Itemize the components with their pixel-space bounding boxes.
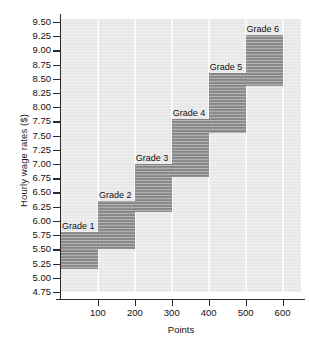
y-tick-8.25 [53,93,60,94]
bar-texture [209,73,246,133]
bar-grade-1 [61,232,98,269]
bar-grade-2 [98,201,135,249]
bar-label-grade-6: Grade 6 [247,24,280,35]
bar-texture [172,119,209,177]
y-tick-label-6.50: 6.50 [5,187,51,197]
bar-grade-3 [135,164,172,212]
y-tick-6.75 [53,178,60,179]
plot-area [61,19,301,292]
y-axis-line [60,14,61,299]
y-tick-7.75 [53,121,60,122]
y-tick-label-7.00: 7.00 [5,159,51,169]
y-axis-tick-labels: 4.755.005.255.505.756.006.256.506.757.00… [2,0,51,354]
y-tick-5.50 [53,249,60,250]
y-tick-6.00 [53,221,60,222]
y-tick-label-8.75: 8.75 [5,60,51,70]
y-tick-5.75 [53,235,60,236]
x-tick-200 [135,299,136,306]
y-tick-5.00 [53,278,60,279]
x-tick-label-300: 300 [152,307,192,318]
x-axis-line [56,299,305,300]
y-tick-label-9.25: 9.25 [5,31,51,41]
y-tick-label-5.25: 5.25 [5,259,51,269]
bar-label-grade-3: Grade 3 [136,153,169,164]
y-tick-label-8.00: 8.00 [5,102,51,112]
x-tick-500 [246,299,247,306]
y-tick-label-6.75: 6.75 [5,173,51,183]
y-tick-label-7.25: 7.25 [5,145,51,155]
bar-grade-5 [209,73,246,133]
y-tick-label-9.50: 9.50 [5,17,51,27]
y-tick-4.75 [53,292,60,293]
bar-grade-4 [172,119,209,177]
y-tick-label-5.75: 5.75 [5,230,51,240]
y-tick-label-7.50: 7.50 [5,131,51,141]
bar-texture [246,35,283,86]
y-tick-label-4.75: 4.75 [5,287,51,297]
bar-label-grade-2: Grade 2 [99,190,132,201]
bar-texture [135,164,172,212]
y-tick-7.25 [53,150,60,151]
x-tick-label-200: 200 [115,307,155,318]
bar-label-grade-4: Grade 4 [173,108,206,119]
bar-texture [98,201,135,249]
y-tick-7.00 [53,164,60,165]
x-tick-label-600: 600 [263,307,303,318]
y-tick-label-9.00: 9.00 [5,45,51,55]
x-tick-label-100: 100 [78,307,118,318]
y-tick-label-7.75: 7.75 [5,116,51,126]
y-tick-9.00 [53,50,60,51]
y-tick-5.25 [53,264,60,265]
y-tick-9.50 [53,22,60,23]
y-tick-8.00 [53,107,60,108]
y-tick-6.25 [53,207,60,208]
y-tick-8.50 [53,79,60,80]
x-tick-600 [283,299,284,306]
wage-structure-chart: Hourly wage rates ($) 4.755.005.255.505.… [0,0,309,354]
x-tick-label-500: 500 [226,307,266,318]
y-tick-label-6.25: 6.25 [5,202,51,212]
bar-texture [61,232,98,269]
y-tick-6.50 [53,192,60,193]
bar-grade-6 [246,35,283,86]
x-tick-100 [98,299,99,306]
x-tick-300 [172,299,173,306]
y-tick-7.50 [53,136,60,137]
x-tick-label-400: 400 [189,307,229,318]
y-tick-label-5.00: 5.00 [5,273,51,283]
x-tick-400 [209,299,210,306]
x-axis-title: Points [61,324,301,335]
y-tick-8.75 [53,65,60,66]
bar-label-grade-5: Grade 5 [210,62,243,73]
y-tick-label-8.25: 8.25 [5,88,51,98]
y-tick-9.25 [53,36,60,37]
bar-label-grade-1: Grade 1 [62,221,95,232]
y-tick-label-6.00: 6.00 [5,216,51,226]
y-tick-label-8.50: 8.50 [5,74,51,84]
y-tick-label-5.50: 5.50 [5,244,51,254]
